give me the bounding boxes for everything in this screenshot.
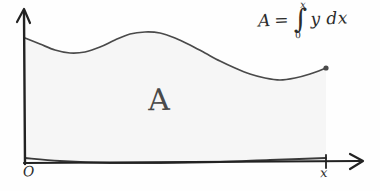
area-fill: [25, 32, 326, 163]
integral-sign-icon: ∫: [293, 8, 308, 30]
x-axis-label: x: [320, 165, 328, 180]
origin-label: O: [22, 163, 35, 180]
integral-upper-limit: x: [300, 0, 306, 10]
integral-with-limits: x ∫ 0: [293, 8, 308, 30]
curve-endpoint-dot: [323, 65, 328, 70]
formula-equals-sign: =: [274, 9, 289, 29]
area-label: A: [148, 82, 170, 117]
integral-formula: A = x ∫ 0 y dx: [258, 6, 348, 31]
formula-integrand: y dx: [310, 7, 348, 28]
integral-lower-limit: 0: [295, 30, 301, 40]
sketch-figure: O x A A = x ∫ 0 y dx: [0, 0, 380, 191]
formula-lhs: A: [258, 10, 271, 30]
